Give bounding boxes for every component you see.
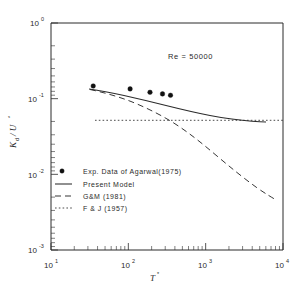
chart-plot-svg: 10 0 10 -1 10 -2 10 -3 10 1 10 2 10 3 10… [0,0,296,290]
legend-label-fj: F & J (1957) [83,205,128,213]
reynolds-annotation: Re = 50000 [168,52,213,61]
series-points-agarwal [91,84,173,98]
x-axis-title: T * [150,271,160,283]
x-tick-label-1: 10 [121,261,130,270]
y-tick-label-0: 10 [30,19,39,28]
x-tick-label-3: 10 [275,261,284,270]
y-tick-exp-1: -1 [39,92,44,98]
data-point [128,87,133,92]
y-axis-title-rest: / U [8,124,18,137]
x-tick-exp-2: 3 [209,258,212,264]
y-tick-label-3: 10 [28,246,37,255]
x-axis-title-base: T [150,273,156,283]
data-point [91,84,96,89]
x-tick-exp-3: 4 [286,258,289,264]
data-point [148,90,153,95]
y-axis-title-sup: * [7,115,13,118]
x-tick-exp-0: 1 [55,258,58,264]
x-axis-tick-labels: 10 1 10 2 10 3 10 4 [44,258,289,270]
series-line-present-model [89,89,266,122]
legend-label-gm: G&M (1981) [83,193,126,201]
x-tick-label-2: 10 [198,261,207,270]
legend-marker-filled-circle-icon [60,169,64,173]
data-point [160,92,165,97]
y-axis-ticks [51,23,58,250]
axis-frame [51,23,283,250]
y-tick-label-1: 10 [28,95,37,104]
chart-legend: Exp. Data of Agarwal(1975) Present Model… [55,168,182,213]
x-axis-title-sup: * [157,271,160,277]
y-axis-tick-labels: 10 0 10 -1 10 -2 10 -3 [28,16,44,255]
chart-figure: 10 0 10 -1 10 -2 10 -3 10 1 10 2 10 3 10… [0,0,296,290]
legend-label-agarwal: Exp. Data of Agarwal(1975) [83,168,182,176]
y-axis-title: K d / U * [7,115,20,149]
y-axis-title-sub: d [14,138,20,141]
y-tick-exp-3: -3 [39,243,44,249]
y-tick-exp-0: 0 [41,16,44,22]
y-tick-label-2: 10 [28,171,37,180]
y-tick-exp-2: -2 [39,168,44,174]
y-axis-title-base: K [8,141,18,149]
legend-label-present-model: Present Model [83,181,135,188]
x-tick-label-0: 10 [44,261,53,270]
x-axis-ticks [51,243,283,250]
x-tick-exp-1: 2 [132,258,135,264]
data-point [168,93,173,98]
